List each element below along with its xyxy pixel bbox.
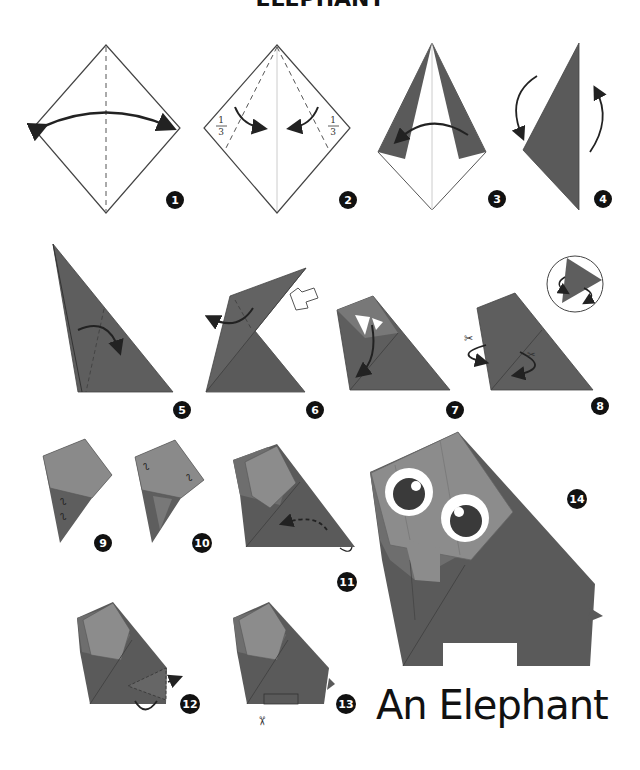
svg-text:7: 7 — [451, 404, 459, 417]
step-14-final-elephant: 14 — [370, 432, 603, 666]
step-badge-13: 13 — [336, 694, 356, 714]
step-12: 12 — [77, 602, 200, 714]
detail-inset — [547, 256, 603, 312]
svg-text:11: 11 — [339, 576, 354, 589]
pleat-icon: ᔐ — [186, 473, 193, 483]
pleat-icon: ᔐ — [60, 497, 67, 507]
svg-text:3: 3 — [330, 127, 336, 137]
step-badge-10: 10 — [192, 533, 212, 553]
svg-text:3: 3 — [218, 127, 224, 137]
left-eye — [385, 468, 433, 516]
step-badge-14: 14 — [567, 489, 587, 509]
step-10: ᔐ ᔐ 10 — [135, 440, 212, 553]
step-2: 13 13 2 — [204, 45, 357, 213]
pleat-icon: ᔐ — [60, 512, 67, 522]
svg-text:5: 5 — [178, 404, 186, 417]
diagram-title: An Elephant — [376, 682, 608, 728]
step-badge-9: 9 — [94, 534, 112, 552]
step-badge-5: 5 — [173, 401, 191, 419]
step-7: 7 — [337, 296, 464, 419]
svg-text:2: 2 — [344, 194, 352, 207]
origami-instructions-diagram: 1 13 13 2 3 4 5 — [0, 0, 640, 770]
svg-text:4: 4 — [599, 193, 607, 206]
step-1: 1 — [33, 45, 184, 213]
svg-text:12: 12 — [182, 698, 197, 711]
fold-arrow-icon — [516, 76, 537, 136]
step-8: ✂ ✂ 8 — [464, 256, 609, 415]
right-eye — [441, 494, 489, 542]
step-badge-3: 3 — [488, 190, 506, 208]
step-badge-1: 1 — [166, 191, 184, 209]
step-11: 11 — [233, 444, 357, 592]
step-4: 4 — [516, 43, 612, 210]
pleat-icon: ᔐ — [143, 462, 150, 472]
fold-arrow-icon — [168, 678, 178, 682]
step-5: 5 — [53, 244, 191, 419]
svg-text:10: 10 — [194, 537, 210, 550]
svg-text:14: 14 — [569, 493, 585, 506]
step-13: ✂ 13 — [233, 602, 356, 726]
svg-text:6: 6 — [311, 404, 319, 417]
svg-text:9: 9 — [99, 537, 107, 550]
step-badge-11: 11 — [337, 572, 357, 592]
step-3: 3 — [378, 43, 506, 210]
svg-text:8: 8 — [596, 400, 604, 413]
step-badge-4: 4 — [594, 190, 612, 208]
scissors-icon: ✂ — [255, 716, 269, 726]
step-6: 6 — [206, 268, 324, 419]
fold-arrow-icon — [590, 90, 603, 152]
svg-text:13: 13 — [338, 698, 353, 711]
svg-text:1: 1 — [218, 115, 224, 125]
scissors-icon: ✂ — [527, 349, 535, 360]
step-badge-6: 6 — [306, 401, 324, 419]
svg-text:3: 3 — [493, 193, 501, 206]
step-badge-7: 7 — [446, 401, 464, 419]
step-badge-12: 12 — [180, 694, 200, 714]
push-arrow-icon — [290, 288, 318, 310]
step-9: ᔐ ᔐ 9 — [43, 439, 112, 552]
step-badge-2: 2 — [339, 191, 357, 209]
step-badge-8: 8 — [591, 397, 609, 415]
svg-text:1: 1 — [330, 115, 336, 125]
svg-text:1: 1 — [171, 194, 179, 207]
scissors-icon: ✂ — [464, 332, 473, 345]
